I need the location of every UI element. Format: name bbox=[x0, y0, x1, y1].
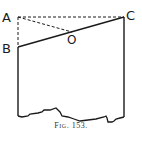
label-c: C bbox=[126, 8, 135, 23]
dashed-line-ao bbox=[18, 17, 72, 32]
label-o: O bbox=[67, 33, 76, 47]
label-b: B bbox=[2, 41, 11, 56]
torn-bottom-edge bbox=[18, 108, 124, 122]
label-a: A bbox=[2, 10, 11, 25]
figure-caption: Fig. 153. bbox=[0, 121, 142, 130]
